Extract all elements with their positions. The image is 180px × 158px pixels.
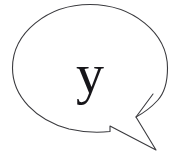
- speech-balloon-figure: y: [0, 0, 180, 158]
- balloon-letter: y: [0, 46, 180, 102]
